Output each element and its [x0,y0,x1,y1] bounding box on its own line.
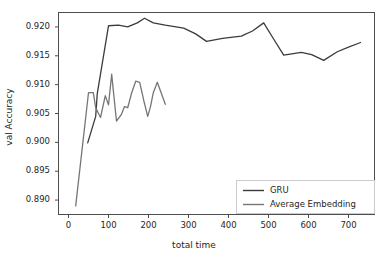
y-axis-ticks [55,27,59,200]
y-tick-label: 0.900 [4,136,50,146]
chart-figure: total time val Accuracy 0.8900.8950.9000… [0,0,388,263]
series-line [88,18,361,143]
x-axis-label: total time [0,240,388,250]
y-tick-label: 0.890 [4,194,50,204]
x-axis-ticks [69,215,349,219]
x-tick-label: 600 [289,220,329,230]
legend-box [237,181,375,214]
x-tick-label: 500 [249,220,289,230]
x-tick-label: 0 [49,220,89,230]
x-tick-label: 200 [129,220,169,230]
x-tick-label: 300 [169,220,209,230]
y-tick-label: 0.895 [4,165,50,175]
y-tick-label: 0.905 [4,108,50,118]
legend-entry-label: Average Embedding [270,199,356,209]
x-tick-label: 700 [329,220,369,230]
series-group [76,18,361,206]
legend-entry-label: GRU [270,185,289,195]
y-tick-label: 0.910 [4,79,50,89]
y-tick-label: 0.915 [4,50,50,60]
y-tick-label: 0.920 [4,21,50,31]
x-tick-label: 400 [209,220,249,230]
x-tick-label: 100 [89,220,129,230]
